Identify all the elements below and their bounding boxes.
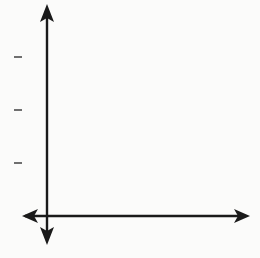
y-axis: [40, 4, 54, 245]
x-axis: [22, 209, 250, 223]
coordinate-plane: [0, 0, 260, 258]
tick-marks: [14, 57, 22, 163]
